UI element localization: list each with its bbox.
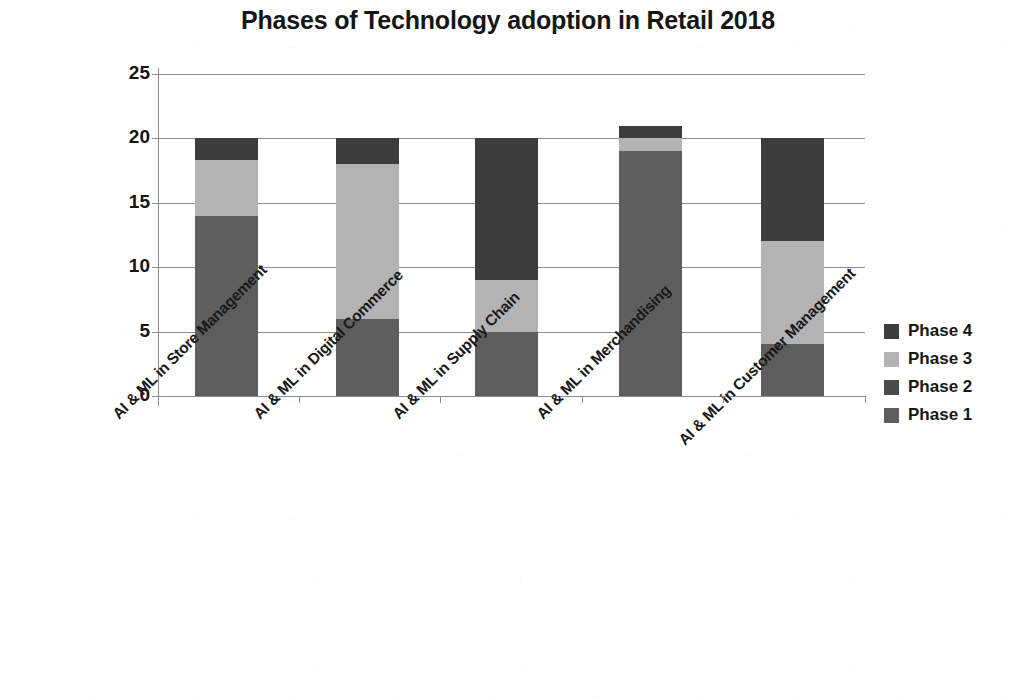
y-tick-label-10: 10 bbox=[106, 255, 150, 277]
x-tick-mark-2 bbox=[440, 396, 441, 403]
legend-item[interactable]: Phase 2 bbox=[884, 373, 1012, 401]
bar-segment[interactable] bbox=[761, 138, 824, 241]
bar-stack bbox=[619, 126, 682, 396]
bar-group[interactable] bbox=[475, 74, 538, 396]
x-tick-mark-5 bbox=[865, 396, 866, 403]
bars-layer bbox=[158, 74, 865, 396]
bar-stack bbox=[195, 138, 258, 396]
bar-segment[interactable] bbox=[475, 138, 538, 280]
legend-label: Phase 1 bbox=[908, 405, 972, 425]
legend-item[interactable]: Phase 3 bbox=[884, 345, 1012, 373]
x-tick-mark-4 bbox=[723, 396, 724, 403]
chart-title: Phases of Technology adoption in Retail … bbox=[0, 6, 1016, 35]
bar-segment[interactable] bbox=[619, 138, 682, 151]
bar-stack bbox=[475, 138, 538, 396]
legend-swatch-icon bbox=[884, 324, 899, 339]
bar-group[interactable] bbox=[336, 74, 399, 396]
y-tick-label-15: 15 bbox=[106, 191, 150, 213]
bar-stack bbox=[336, 138, 399, 396]
bar-segment[interactable] bbox=[475, 332, 538, 396]
bar-segment[interactable] bbox=[195, 160, 258, 215]
bar-group[interactable] bbox=[619, 74, 682, 396]
x-tick-mark-0 bbox=[158, 396, 159, 403]
legend-swatch-icon bbox=[884, 380, 899, 395]
bar-group[interactable] bbox=[195, 74, 258, 396]
legend-label: Phase 4 bbox=[908, 321, 972, 341]
bar-segment[interactable] bbox=[619, 126, 682, 139]
x-tick-mark-3 bbox=[582, 396, 583, 403]
bar-segment[interactable] bbox=[195, 138, 258, 160]
y-tick-label-20: 20 bbox=[106, 126, 150, 148]
legend-label: Phase 3 bbox=[908, 349, 972, 369]
bar-segment[interactable] bbox=[619, 151, 682, 396]
legend-swatch-icon bbox=[884, 408, 899, 423]
legend-item[interactable]: Phase 4 bbox=[884, 317, 1012, 345]
legend-item[interactable]: Phase 1 bbox=[884, 401, 1012, 429]
y-tick-label-5: 5 bbox=[106, 320, 150, 342]
chart-legend: Phase 4Phase 3Phase 2Phase 1 bbox=[884, 317, 1012, 429]
bar-segment[interactable] bbox=[336, 138, 399, 164]
x-tick-mark-1 bbox=[299, 396, 300, 403]
legend-label: Phase 2 bbox=[908, 377, 972, 397]
legend-swatch-icon bbox=[884, 352, 899, 367]
y-tick-label-25: 25 bbox=[106, 62, 150, 84]
